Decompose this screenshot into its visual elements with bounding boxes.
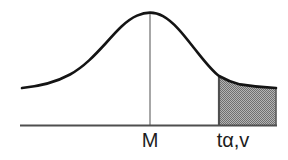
mean-label: M xyxy=(142,130,159,150)
density-curve xyxy=(22,13,276,88)
critical-value-label: tα,v xyxy=(217,130,250,150)
distribution-figure: M tα,v xyxy=(0,0,288,160)
